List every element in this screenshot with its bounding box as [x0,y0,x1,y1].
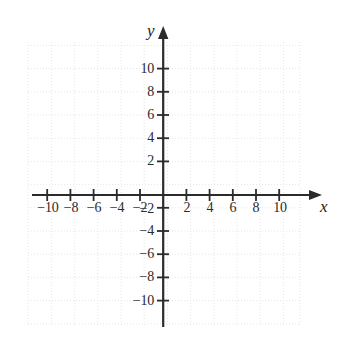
x-tick-label--4: −4 [110,201,125,215]
x-tick-label--8: −8 [64,201,79,215]
y-axis-arrow-icon [158,26,168,39]
x-tick-label-8: 8 [253,201,260,215]
y-tick-label-2: 2 [147,154,154,168]
y-tick-label-8: 8 [147,85,154,99]
y-tick-label--4: −4 [140,224,155,238]
coordinate-plane-figure: −10 −8 −6 −4 −2 2 4 6 8 10 10 8 6 4 2 −2… [0,0,342,337]
y-tick-label-6: 6 [147,108,154,122]
y-tick-label--8: −8 [140,270,155,284]
y-axis-label: y [147,22,155,39]
x-tick-label-2: 2 [184,201,191,215]
x-tick-label-6: 6 [230,201,237,215]
x-tick-label--10: −10 [37,201,58,215]
x-tick-label-10: 10 [273,201,287,215]
y-tick-label--2: −2 [140,202,155,216]
y-tick-label-4: 4 [147,131,154,145]
y-tick-label--6: −6 [140,247,155,261]
x-axis-label: x [320,198,328,215]
x-tick-label--6: −6 [87,201,102,215]
y-tick-label--10: −10 [133,294,154,308]
y-tick-label-10: 10 [140,62,154,76]
coordinate-grid-svg [0,0,342,337]
x-tick-label-4: 4 [207,201,214,215]
